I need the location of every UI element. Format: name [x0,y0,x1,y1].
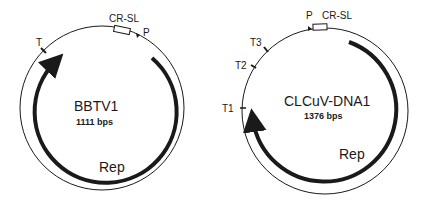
genome-size: 1376 bps [304,111,343,121]
terminator-t3-label: T3 [250,37,262,48]
genome-name: BBTV1 [74,98,119,114]
terminator-t3-tick [264,47,268,52]
promoter-marker-icon [308,26,312,31]
promoter-label: P [306,10,313,21]
promoter-marker-icon [136,33,140,38]
cr-sl-box [114,25,131,34]
rep-gene-label: Rep [339,146,365,162]
genome-size: 1111 bps [76,117,113,127]
map-bbtv1: CR-SL P T BBTV1 1111 bps Rep [20,13,184,190]
terminator-t1-label: T1 [222,103,234,114]
cr-sl-box [313,24,327,30]
rep-gene-label: Rep [99,159,125,175]
plasmid-maps-diagram: CR-SL P T BBTV1 1111 bps Rep CR-SL P T3 … [0,0,424,201]
terminator-t2-label: T2 [235,60,247,71]
map-clcuv-dna1: CR-SL P T3 T2 T1 CLCuV-DNA1 1376 bps Rep [222,10,408,194]
cr-sl-label: CR-SL [322,10,352,21]
promoter-label: P [143,27,150,38]
genome-name: CLCuV-DNA1 [284,93,371,109]
cr-sl-label: CR-SL [109,13,139,24]
terminator-label: T [36,37,42,48]
